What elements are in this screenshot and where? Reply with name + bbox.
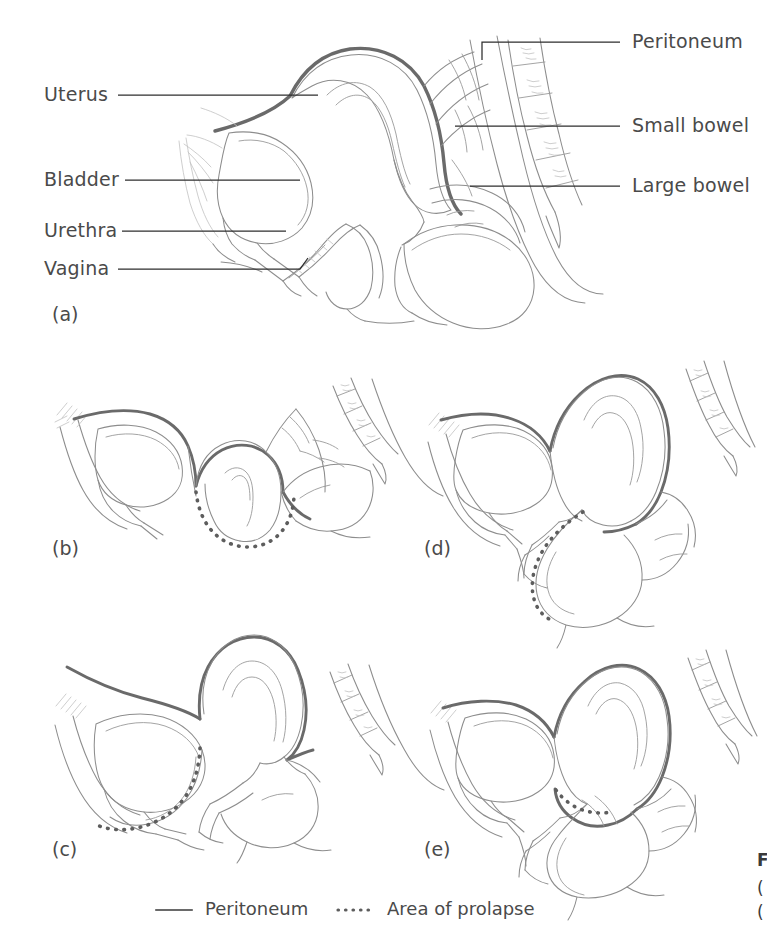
figure-root: Uterus Bladder Urethra Vagina Peritoneum…	[0, 0, 767, 940]
label-peritoneum: Peritoneum	[632, 30, 743, 52]
edge-caption-line3: (	[757, 902, 767, 922]
anatomy-artwork	[0, 0, 767, 940]
panel-b-sacrum	[333, 378, 398, 484]
edge-caption-line1: F	[757, 850, 767, 870]
legend: Peritoneum Area of prolapse	[0, 895, 767, 925]
panel-c-drawing	[55, 635, 444, 863]
panel-a-drawing	[118, 36, 620, 329]
panel-c-sacrum	[330, 664, 395, 775]
legend-label-peritoneum: Peritoneum	[205, 898, 308, 919]
panel-letter-a: (a)	[52, 303, 78, 325]
label-small-bowel: Small bowel	[632, 114, 749, 136]
edge-caption-line2: (	[757, 878, 767, 898]
panel-d-drawing	[428, 361, 755, 648]
panel-e-sacrum	[688, 650, 752, 764]
panel-letter-e: (e)	[424, 838, 451, 860]
panel-letter-c: (c)	[52, 838, 77, 860]
label-uterus: Uterus	[44, 83, 108, 105]
label-urethra: Urethra	[44, 219, 117, 241]
label-large-bowel: Large bowel	[632, 174, 750, 196]
panel-e-drawing	[430, 650, 757, 920]
legend-label-area-of-prolapse: Area of prolapse	[387, 898, 535, 919]
panel-b-drawing	[55, 378, 443, 547]
panel-letter-b: (b)	[52, 537, 79, 559]
panel-d-sacrum	[686, 361, 750, 476]
label-vagina: Vagina	[44, 257, 109, 279]
label-bladder: Bladder	[44, 168, 119, 190]
legend-line-samples	[0, 895, 767, 925]
panel-letter-d: (d)	[424, 537, 451, 559]
